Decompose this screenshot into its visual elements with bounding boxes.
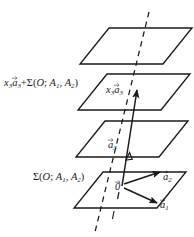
label-a-sub-a1: 1 [165,204,168,211]
label-vector-a1: a1 [160,200,169,211]
label-a-x3a3: a [114,84,119,95]
label-vector-a2: a2 [163,172,172,183]
label-origin-zero: 0 [115,182,120,193]
label-close-paren-base: ) [81,171,85,182]
label-close-paren: ) [75,77,79,88]
label-a-sub-a3: 3 [113,144,116,151]
vector-space-diagram: x3a3+Σ(O; A1, A2) Σ(O; A1, A2) x3a3 a3 0… [0,0,194,237]
label-zero-vec: 0 [115,182,120,193]
label-vector-a3: a3 [108,140,117,151]
label-zero-symbol: 0 [115,181,120,192]
label-base-plane: Σ(O; A1, A2) [33,172,84,183]
label-a-a1: a [160,199,165,210]
label-vector-x3a3: x3a3 [106,85,123,96]
label-a-a3: a [108,139,113,150]
label-origin-O: O [36,77,44,88]
dashed-axis-line [95,12,149,232]
label-a-vec-a3: a [108,140,113,151]
label-a-vec-x3a3: a [114,85,119,96]
label-a-vec-a1: a [160,200,165,211]
label-sigma-open-base: Σ( [33,171,43,182]
label-sigma-open: Σ( [27,77,37,88]
label-translated-plane: x3a3+Σ(O; A1, A2) [4,78,78,89]
label-a-sub-x3a3: 3 [119,89,122,96]
label-a-sub-a2: 2 [168,176,171,183]
plane-top [80,28,192,64]
label-a3: a [12,77,17,88]
arrow-a1 [124,188,157,203]
arrow-a2 [124,172,160,184]
label-a-a2: a [163,171,168,182]
tick-marks [113,192,120,219]
label-a3-vec: a [12,78,17,89]
label-a-vec-a2: a [163,172,168,183]
